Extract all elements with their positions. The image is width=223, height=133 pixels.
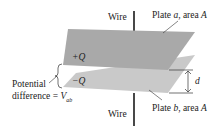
potential-line2: difference = Vab [12, 92, 72, 103]
plate-a-area: A [201, 10, 207, 20]
plate-a-suffix: , area [178, 10, 201, 20]
potential-brace-icon [55, 64, 62, 88]
plate-b-label: Plate b, area A [152, 104, 207, 114]
plate-a-prefix: Plate [152, 10, 173, 20]
charge-top-label: +Q [72, 53, 85, 63]
wire-top-label: Wire [108, 13, 127, 23]
separation-label: d [195, 77, 200, 87]
plate-b-area: A [201, 103, 207, 113]
charge-bottom-label: −Q [72, 77, 85, 87]
potential-sub: ab [66, 97, 72, 103]
plate-b-suffix: , area [178, 103, 201, 113]
plate-b-prefix: Plate [152, 103, 173, 113]
potential-leader [49, 76, 57, 83]
potential-line1: Potential [12, 80, 46, 90]
plate-a-label: Plate a, area A [152, 11, 207, 21]
potential-eq: difference = [12, 91, 60, 101]
wire-bottom-label: Wire [108, 110, 127, 120]
plate-a-leader [163, 21, 178, 33]
